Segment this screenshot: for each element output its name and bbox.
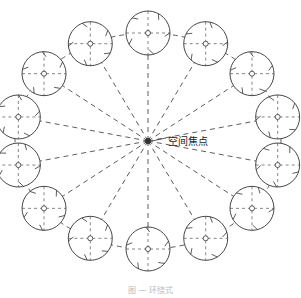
tree-icon bbox=[256, 95, 300, 139]
tree-icon bbox=[126, 227, 170, 271]
tree-icon bbox=[68, 22, 112, 66]
caption: 图 — 环绕式 bbox=[0, 284, 301, 295]
tree-icon bbox=[230, 52, 274, 96]
tree-icon bbox=[22, 52, 66, 96]
tree-icon bbox=[256, 143, 300, 187]
focus-label: 空间焦点 bbox=[168, 133, 208, 148]
radial-tree-diagram bbox=[0, 0, 301, 298]
tree-icon bbox=[68, 216, 112, 260]
tree-icon bbox=[0, 95, 40, 139]
tree-icon bbox=[22, 186, 66, 230]
tree-icon bbox=[184, 216, 228, 260]
tree-icon bbox=[0, 143, 40, 187]
focus-point bbox=[145, 138, 151, 144]
tree-icon bbox=[230, 186, 274, 230]
tree-icon bbox=[184, 22, 228, 66]
tree-icon bbox=[126, 11, 170, 55]
diagram: 空间焦点 图 — 环绕式 bbox=[0, 0, 301, 298]
